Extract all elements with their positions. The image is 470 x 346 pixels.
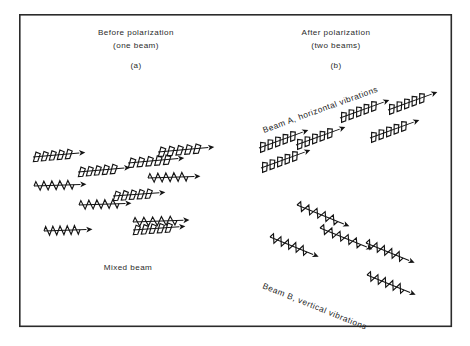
panel-a-heading-line2: (one beam) — [113, 41, 159, 50]
panel-b-tag: (b) — [330, 61, 341, 70]
polarization-figure: Before polarization (one beam) (a) After… — [0, 0, 470, 346]
panel-b-heading-line1: After polarization — [302, 28, 371, 37]
panel-a-tag: (a) — [130, 61, 141, 70]
panel-a-heading-line1: Before polarization — [98, 28, 174, 37]
polarization-diagram-svg: Before polarization (one beam) (a) After… — [0, 0, 470, 346]
mixed-beam-label: Mixed beam — [104, 263, 153, 272]
panel-b-heading-line2: (two beams) — [311, 41, 360, 50]
